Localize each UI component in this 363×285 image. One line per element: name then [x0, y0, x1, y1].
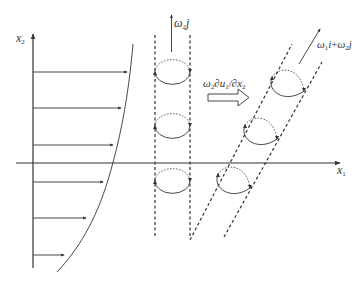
partial-x: /∂x [229, 77, 242, 89]
tilting-term-label: ω2∂u1/∂x2 [203, 78, 246, 91]
omega-symbol: ω [203, 77, 211, 89]
vortex-loop-tilted [270, 70, 306, 96]
vortex-tilting-diagram [0, 0, 363, 285]
axes [16, 34, 340, 268]
unit-j: j [186, 16, 189, 30]
partial-u: ∂u [214, 77, 225, 89]
tilted-vortex-tube [190, 29, 322, 240]
profile-curve [57, 44, 133, 272]
tilted-vorticity-label: ω1i+ω2j [317, 39, 352, 52]
omega-symbol: ω [317, 38, 325, 50]
x1-label-sub: 1 [342, 170, 346, 178]
vortex-loop [153, 169, 192, 194]
tilting-hollow-arrow [208, 89, 249, 106]
unit-j: j [349, 38, 352, 50]
vortex-loop [153, 60, 192, 85]
omega2-j-label: ω2j [174, 17, 189, 31]
x1-axis-label: x1 [337, 164, 346, 178]
velocity-profile [33, 44, 133, 272]
vortex-loop [153, 114, 192, 139]
tilted-boundary-left [190, 44, 292, 240]
x2-axis-label: x2 [16, 32, 25, 46]
vertical-vortex-tube [153, 15, 192, 237]
vortex-loop-tilted [243, 118, 279, 144]
x2-label-sub: 2 [21, 38, 25, 46]
x-sub: 2 [242, 83, 246, 91]
